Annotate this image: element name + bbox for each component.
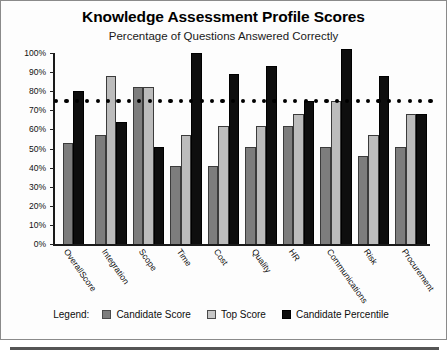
bar-group bbox=[242, 53, 280, 244]
bar bbox=[245, 147, 256, 244]
bar bbox=[331, 101, 342, 244]
bar bbox=[379, 76, 390, 244]
bar bbox=[304, 101, 315, 244]
legend-item[interactable]: Top Score bbox=[207, 309, 266, 320]
y-tick-mark bbox=[50, 206, 54, 207]
legend-item-label: Candidate Percentile bbox=[296, 309, 389, 320]
x-tick-label: OverallScore bbox=[62, 247, 99, 293]
x-axis-line bbox=[53, 244, 430, 246]
bar bbox=[283, 126, 294, 244]
y-tick-mark bbox=[50, 110, 54, 111]
y-tick-label: 20% bbox=[29, 201, 46, 211]
x-tick-label: Quality bbox=[250, 247, 274, 275]
y-tick-label: 70% bbox=[29, 105, 46, 115]
y-tick-mark bbox=[50, 129, 54, 130]
bar-group bbox=[167, 53, 205, 244]
bar bbox=[341, 49, 352, 244]
bar-group bbox=[317, 53, 355, 244]
candidate-score-swatch bbox=[102, 310, 111, 319]
y-tick-mark bbox=[50, 225, 54, 226]
bar bbox=[320, 147, 331, 244]
bar bbox=[63, 143, 74, 244]
y-tick-mark bbox=[50, 187, 54, 188]
bar bbox=[154, 147, 165, 244]
chart-title: Knowledge Assessment Profile Scores bbox=[1, 8, 446, 26]
bar-group bbox=[280, 53, 318, 244]
x-tick-label: Integration bbox=[100, 247, 131, 286]
top-score-swatch bbox=[207, 310, 216, 319]
y-tick-label: 60% bbox=[29, 124, 46, 134]
x-tick-label: Procurement bbox=[400, 247, 436, 293]
y-tick-label: 40% bbox=[29, 163, 46, 173]
bar bbox=[116, 122, 127, 244]
bar-group bbox=[130, 53, 168, 244]
y-tick-mark bbox=[50, 168, 54, 169]
bar bbox=[293, 114, 304, 244]
bar bbox=[406, 114, 417, 244]
y-tick-label: 30% bbox=[29, 182, 46, 192]
bar bbox=[73, 91, 84, 244]
y-tick-label: 80% bbox=[29, 86, 46, 96]
plot-area bbox=[55, 53, 430, 244]
bar bbox=[256, 126, 267, 244]
bar-group bbox=[392, 53, 430, 244]
bar bbox=[133, 87, 144, 244]
bar bbox=[170, 166, 181, 244]
x-axis: OverallScoreIntegrationScopeTimeCostQual… bbox=[55, 247, 430, 305]
x-tick-label: Cost bbox=[212, 247, 230, 267]
y-tick-mark bbox=[50, 244, 54, 245]
y-tick-mark bbox=[50, 149, 54, 150]
legend-item[interactable]: Candidate Score bbox=[102, 309, 191, 320]
x-tick-label: Time bbox=[175, 247, 194, 268]
footer-divider bbox=[10, 347, 439, 350]
bar bbox=[95, 135, 106, 244]
y-tick-label: 0% bbox=[34, 239, 46, 249]
chart-card: Knowledge Assessment Profile Scores Perc… bbox=[0, 0, 447, 340]
bar bbox=[191, 53, 202, 244]
bar bbox=[395, 147, 406, 244]
bar bbox=[368, 135, 379, 244]
y-tick-mark bbox=[50, 72, 54, 73]
y-tick-label: 50% bbox=[29, 144, 46, 154]
bar bbox=[181, 135, 192, 244]
x-tick-label: Scope bbox=[137, 247, 159, 273]
y-tick-label: 90% bbox=[29, 67, 46, 77]
bar bbox=[358, 156, 369, 244]
bar bbox=[416, 114, 427, 244]
legend-item-label: Top Score bbox=[221, 309, 266, 320]
x-tick-label: HR bbox=[287, 247, 302, 263]
bar bbox=[143, 87, 154, 244]
chart-legend: Legend: Candidate ScoreTop ScoreCandidat… bbox=[1, 309, 447, 320]
bar-group bbox=[92, 53, 130, 244]
chart-subtitle: Percentage of Questions Answered Correct… bbox=[1, 30, 446, 42]
y-axis: 0%10%20%30%40%50%60%70%80%90%100% bbox=[13, 53, 50, 245]
bar bbox=[229, 74, 240, 244]
x-tick-label: Risk bbox=[362, 247, 380, 266]
legend-item[interactable]: Candidate Percentile bbox=[282, 309, 389, 320]
x-tick-label: Communications bbox=[325, 247, 370, 305]
bar-group bbox=[205, 53, 243, 244]
bar-group bbox=[55, 53, 93, 244]
legend-item-label: Candidate Score bbox=[116, 309, 191, 320]
bar bbox=[208, 166, 219, 244]
bar-group bbox=[355, 53, 393, 244]
y-tick-mark bbox=[50, 91, 54, 92]
y-tick-label: 100% bbox=[24, 48, 46, 58]
legend-title: Legend: bbox=[53, 309, 89, 320]
y-tick-mark bbox=[50, 53, 54, 54]
plot-region: 0%10%20%30%40%50%60%70%80%90%100% Overal… bbox=[1, 53, 447, 305]
bar bbox=[266, 66, 277, 244]
bar bbox=[106, 76, 117, 244]
candidate-percentile-swatch bbox=[282, 310, 291, 319]
y-tick-label: 10% bbox=[29, 220, 46, 230]
bar bbox=[218, 126, 229, 244]
